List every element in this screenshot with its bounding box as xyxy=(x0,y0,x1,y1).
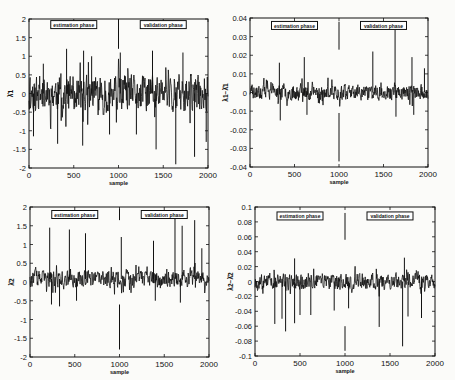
y-tick-label: 0.06 xyxy=(237,233,252,242)
y-tick-label: -0.08 xyxy=(235,337,252,346)
y-tick-label: 0 xyxy=(248,278,252,287)
validation-phase-label: validation phase xyxy=(367,212,413,220)
y-tick-label: -0.04 xyxy=(235,307,252,316)
y-tick-label: -0.1 xyxy=(239,352,252,361)
x-tick-label: 1500 xyxy=(381,359,399,368)
y-tick-label: 0.02 xyxy=(237,263,252,272)
figure-caption-cutoff xyxy=(0,368,455,380)
estimation-phase-label: estimation phase xyxy=(277,212,323,220)
x-tick-label: 2000 xyxy=(426,359,444,368)
y-tick-label: 0.1 xyxy=(242,203,252,212)
x-tick-label: 1000 xyxy=(336,359,354,368)
svg-text:validation phase: validation phase xyxy=(370,213,409,219)
svg-text:estimation phase: estimation phase xyxy=(280,213,321,219)
y-tick-label: -0.06 xyxy=(235,322,252,331)
x-tick-label: 500 xyxy=(293,359,307,368)
y-tick-label: -0.02 xyxy=(235,292,252,301)
y-tick-label: 0.08 xyxy=(237,218,252,227)
y-tick-label: 0.04 xyxy=(237,248,252,257)
y-axis-label: λ2−λ̂2 xyxy=(227,272,234,291)
x-tick-label: 0 xyxy=(253,359,258,368)
